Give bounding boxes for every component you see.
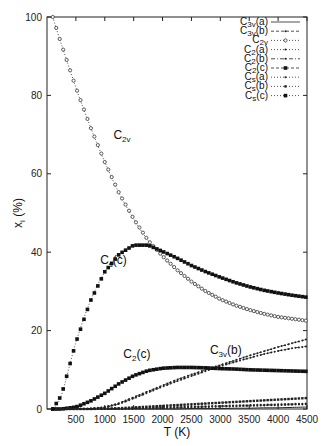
x-axis: 50010001500200025003000350040004500 <box>68 17 319 425</box>
legend-item: C2(a) <box>244 44 300 57</box>
svg-text:Cs(c): Cs(c) <box>245 90 268 103</box>
y-tick-label: 0 <box>36 404 42 415</box>
curve-annotation: Cs(c) <box>100 253 127 269</box>
x-tick-label: 4000 <box>267 414 290 425</box>
x-tick-label: 500 <box>68 414 85 425</box>
x-tick-label: 1000 <box>94 414 117 425</box>
chart: 020406080100 500100015002000250030003500… <box>0 0 324 446</box>
y-tick-label: 80 <box>31 90 43 101</box>
x-tick-label: 3000 <box>209 414 232 425</box>
series-c2c <box>51 366 308 411</box>
y-tick-label: 100 <box>25 12 42 23</box>
curve-annotation: C2(c) <box>123 347 150 363</box>
y-axis-label: xi (%) <box>11 198 27 228</box>
x-axis-label: T (K) <box>164 425 190 439</box>
x-tick-label: 1500 <box>123 414 146 425</box>
x-tick-label: 3500 <box>238 414 261 425</box>
series-c2v <box>51 15 307 322</box>
x-tick-label: 4500 <box>296 414 319 425</box>
y-tick-label: 40 <box>31 247 43 258</box>
x-tick-label: 2500 <box>180 414 203 425</box>
y-tick-label: 20 <box>31 325 43 336</box>
series-layer <box>51 15 308 410</box>
x-tick-label: 2000 <box>151 414 174 425</box>
y-tick-label: 60 <box>31 168 43 179</box>
curve-annotation: C3v(b) <box>210 343 242 359</box>
annotation-layer: C2vCs(c)C2(c)C3v(b) <box>100 128 242 364</box>
curve-annotation: C2v <box>113 128 130 144</box>
legend: C3v(a)C3v(b)C2vC2(a)C2(b)C2(c)Cs(a)Cs(b)… <box>240 16 300 103</box>
series-csc <box>51 243 308 410</box>
svg-text:xi (%): xi (%) <box>11 198 27 228</box>
